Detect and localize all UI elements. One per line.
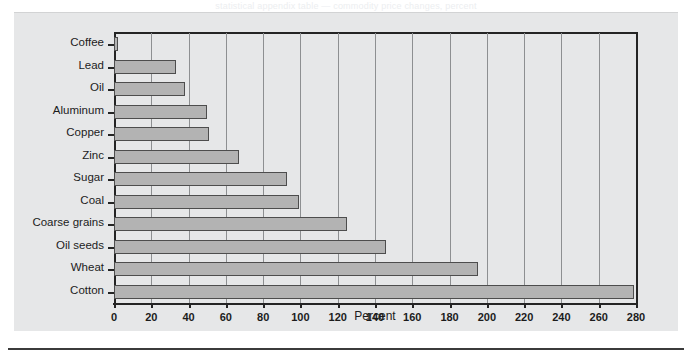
bar xyxy=(114,150,239,164)
bar xyxy=(114,37,118,51)
x-tick xyxy=(487,303,489,308)
y-tick-label: Coffee xyxy=(0,36,104,48)
y-tick-label: Copper xyxy=(0,126,104,138)
x-tick xyxy=(561,303,563,308)
chart-figure: statistical appendix table — commodity p… xyxy=(0,0,692,361)
bar xyxy=(114,240,386,254)
gridline xyxy=(524,33,525,303)
chart-axes: 020406080100120140160180200220240260280 … xyxy=(114,33,636,303)
y-tick-label: Lead xyxy=(0,59,104,71)
y-tick-label: Zinc xyxy=(0,149,104,161)
x-tick xyxy=(300,303,302,308)
bar xyxy=(114,82,185,96)
gridline xyxy=(487,33,488,303)
axis-right-spine xyxy=(636,32,638,304)
x-tick xyxy=(226,303,228,308)
gridline xyxy=(599,33,600,303)
bottom-rule xyxy=(8,348,684,350)
scan-residue-text: statistical appendix table — commodity p… xyxy=(0,0,692,12)
y-tick-label: Coarse grains xyxy=(0,216,104,228)
y-tick-label: Sugar xyxy=(0,171,104,183)
bar xyxy=(114,105,207,119)
x-tick xyxy=(412,303,414,308)
y-tick-label: Oil xyxy=(0,81,104,93)
gridline xyxy=(561,33,562,303)
y-tick-label: Wheat xyxy=(0,261,104,273)
plot-panel: 020406080100120140160180200220240260280 … xyxy=(14,12,678,331)
y-tick-label: Cotton xyxy=(0,284,104,296)
x-tick xyxy=(338,303,340,308)
x-tick xyxy=(524,303,526,308)
x-tick xyxy=(263,303,265,308)
bar xyxy=(114,127,209,141)
x-axis-label: Percent xyxy=(114,309,636,323)
x-tick xyxy=(114,303,116,308)
bar xyxy=(114,262,478,276)
x-tick xyxy=(375,303,377,308)
x-tick xyxy=(599,303,601,308)
bar xyxy=(114,195,299,209)
bar xyxy=(114,172,287,186)
x-tick xyxy=(450,303,452,308)
x-tick xyxy=(151,303,153,308)
bar xyxy=(114,285,634,299)
bar xyxy=(114,217,347,231)
y-tick-label: Coal xyxy=(0,194,104,206)
x-tick xyxy=(189,303,191,308)
bar xyxy=(114,60,176,74)
y-tick-label: Aluminum xyxy=(0,104,104,116)
y-tick-label: Oil seeds xyxy=(0,239,104,251)
x-tick xyxy=(636,303,638,308)
